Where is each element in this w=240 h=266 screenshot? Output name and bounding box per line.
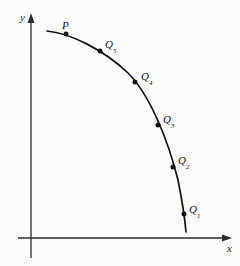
point-label-Q4: Q4 (141, 71, 152, 82)
point-marker-Q4 (133, 80, 138, 85)
point-label-Q5: Q5 (105, 39, 116, 50)
point-marker-Q1 (182, 212, 187, 217)
y-axis-arrowhead (28, 13, 35, 23)
point-marker-P (64, 32, 69, 37)
secant-point-diagram: P Q5 Q4 Q3 Q2 Q1 y x (0, 0, 240, 266)
point-marker-Q5 (98, 49, 103, 54)
point-marker-Q2 (171, 165, 176, 170)
point-label-Q3: Q3 (163, 114, 174, 125)
x-axis-label: x (227, 243, 232, 254)
diagram-canvas (0, 0, 240, 266)
x-axis-arrowhead (222, 235, 232, 242)
point-label-P: P (62, 20, 69, 31)
curve-path (47, 31, 186, 232)
point-label-Q1: Q1 (189, 204, 200, 215)
y-axis-label: y (20, 12, 25, 23)
point-label-Q2: Q2 (178, 155, 189, 166)
point-marker-Q3 (156, 123, 161, 128)
